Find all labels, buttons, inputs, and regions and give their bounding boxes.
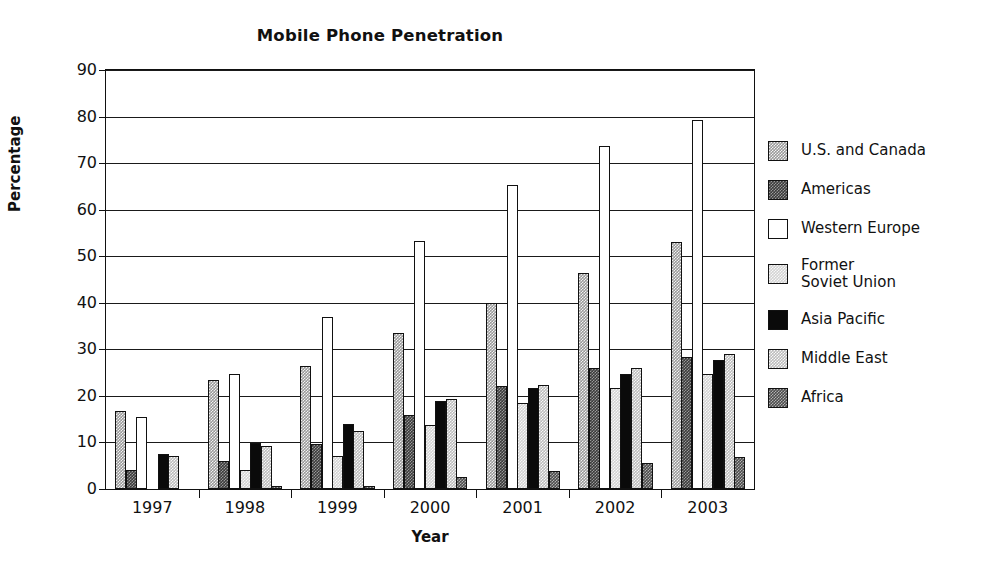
bar — [435, 401, 446, 489]
bar — [364, 486, 375, 489]
bar-group: 2000 — [384, 70, 477, 489]
x-tick-label: 2003 — [661, 498, 754, 517]
bar — [507, 185, 518, 489]
bar — [353, 431, 364, 489]
legend-label: Former Soviet Union — [801, 257, 896, 292]
bar — [404, 415, 415, 489]
bar — [610, 388, 621, 489]
bar-group: 1998 — [199, 70, 292, 489]
legend-swatch-icon — [768, 219, 788, 239]
bar — [589, 368, 600, 489]
bar — [642, 463, 653, 489]
legend-item[interactable]: Western Europe — [768, 218, 986, 240]
bar — [332, 456, 343, 489]
chart-legend: U.S. and CanadaAmericasWestern EuropeFor… — [768, 140, 986, 426]
bar — [496, 386, 507, 489]
bar — [311, 444, 322, 489]
bar — [300, 366, 311, 489]
bar — [456, 477, 467, 489]
bar — [343, 424, 354, 489]
chart-title: Mobile Phone Penetration — [0, 26, 760, 45]
bar-group: 2001 — [476, 70, 569, 489]
bar — [724, 354, 735, 489]
bar — [713, 360, 724, 489]
bar — [702, 374, 713, 489]
bar — [229, 374, 240, 489]
bar — [261, 446, 272, 489]
bar-group: 2002 — [569, 70, 662, 489]
bar — [549, 471, 560, 489]
bar — [136, 417, 147, 489]
legend-label: Asia Pacific — [801, 311, 885, 328]
y-tick-mark — [99, 489, 106, 490]
legend-item[interactable]: U.S. and Canada — [768, 140, 986, 162]
y-tick-mark — [99, 256, 106, 257]
y-tick-mark — [99, 349, 106, 350]
x-tick-label: 2002 — [569, 498, 662, 517]
x-tick-mark — [476, 489, 477, 498]
x-tick-label: 1999 — [291, 498, 384, 517]
x-tick-label: 2000 — [384, 498, 477, 517]
bar-group: 2003 — [661, 70, 754, 489]
bar — [240, 470, 251, 489]
bar — [168, 456, 179, 489]
y-tick-mark — [99, 70, 106, 71]
bar — [671, 242, 682, 489]
bar — [115, 411, 126, 489]
bar — [631, 368, 642, 489]
x-tick-mark — [199, 489, 200, 498]
x-tick-label: 1997 — [106, 498, 199, 517]
y-tick-label: 70 — [77, 153, 97, 172]
bar — [517, 403, 528, 489]
x-tick-mark — [291, 489, 292, 498]
y-tick-mark — [99, 210, 106, 211]
y-axis-label: Percentage — [6, 12, 24, 212]
legend-label: U.S. and Canada — [801, 142, 926, 159]
bar — [250, 443, 261, 489]
legend-label: Africa — [801, 389, 844, 406]
bar — [425, 425, 436, 489]
x-tick-mark — [661, 489, 662, 498]
legend-label: Western Europe — [801, 220, 920, 237]
y-tick-label: 30 — [77, 339, 97, 358]
y-tick-mark — [99, 163, 106, 164]
legend-item[interactable]: Former Soviet Union — [768, 257, 986, 292]
bar — [271, 486, 282, 489]
x-tick-label: 1998 — [199, 498, 292, 517]
legend-item[interactable]: Asia Pacific — [768, 309, 986, 331]
bar — [322, 317, 333, 489]
x-tick-mark — [384, 489, 385, 498]
bar-group: 1997 — [106, 70, 199, 489]
legend-swatch-icon — [768, 388, 788, 408]
bar — [620, 374, 631, 489]
bar-group: 1999 — [291, 70, 384, 489]
bar — [218, 461, 229, 489]
y-tick-label: 10 — [77, 433, 97, 452]
legend-item[interactable]: Americas — [768, 179, 986, 201]
legend-swatch-icon — [768, 310, 788, 330]
bar — [734, 457, 745, 489]
y-tick-label: 0 — [87, 479, 97, 498]
legend-item[interactable]: Middle East — [768, 348, 986, 370]
legend-swatch-icon — [768, 180, 788, 200]
y-tick-label: 20 — [77, 386, 97, 405]
bar — [414, 241, 425, 489]
bar — [486, 303, 497, 489]
bar — [528, 388, 539, 489]
y-tick-label: 50 — [77, 246, 97, 265]
x-tick-label: 2001 — [476, 498, 569, 517]
bar — [446, 399, 457, 489]
bar — [538, 385, 549, 489]
y-tick-label: 40 — [77, 293, 97, 312]
bar — [599, 146, 610, 489]
y-tick-mark — [99, 303, 106, 304]
legend-label: Middle East — [801, 350, 888, 367]
legend-item[interactable]: Africa — [768, 387, 986, 409]
chart-container: Mobile Phone Penetration Percentage 0102… — [0, 0, 993, 572]
y-tick-mark — [99, 117, 106, 118]
x-tick-mark — [569, 489, 570, 498]
y-tick-label: 90 — [77, 60, 97, 79]
x-axis-label: Year — [105, 528, 755, 546]
legend-swatch-icon — [768, 141, 788, 161]
bar — [126, 470, 137, 489]
